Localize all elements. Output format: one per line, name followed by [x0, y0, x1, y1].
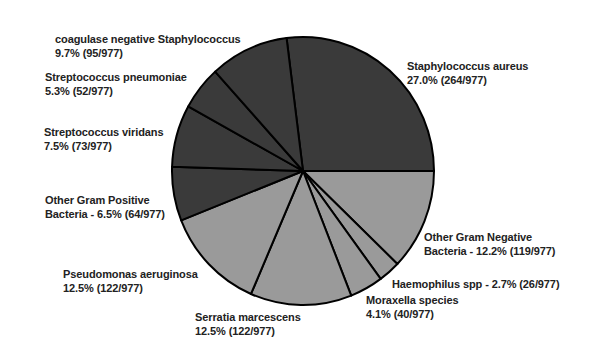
- slice-label-name: Pseudomonas aeruginosa: [63, 267, 198, 281]
- slice-label: Pseudomonas aeruginosa12.5% (122/977): [63, 267, 198, 295]
- slice-label-name: Other Gram Negative: [424, 230, 555, 244]
- slice-label: Serratia marcescens12.5% (122/977): [195, 310, 301, 338]
- slice-label-value: 5.3% (52/977): [45, 84, 187, 98]
- slice-label-name: Streptococcus pneumoniae: [45, 70, 187, 84]
- slice-label: coagulase negative Staphylococcus9.7% (9…: [55, 32, 241, 60]
- slice-label-value: Bacteria - 6.5% (64/977): [45, 207, 165, 221]
- slice-label-value: Bacteria - 12.2% (119/977): [424, 244, 555, 258]
- slice-label-value: 12.5% (122/977): [63, 281, 198, 295]
- slice-label: Moraxella species4.1% (40/977): [366, 293, 458, 321]
- slice-label: Other Gram NegativeBacteria - 12.2% (119…: [424, 230, 555, 258]
- slice-label-value: 4.1% (40/977): [366, 307, 458, 321]
- slice-label-name: Haemophilus spp - 2.7% (26/977): [392, 277, 559, 291]
- slice-label: Haemophilus spp - 2.7% (26/977): [392, 277, 559, 291]
- slice-label-name: Streptococcus viridans: [44, 125, 163, 139]
- slice-label-value: 9.7% (95/977): [55, 46, 241, 60]
- slice-label: Staphylococcus aureus27.0% (264/977): [407, 59, 528, 87]
- slice-label-name: Moraxella species: [366, 293, 458, 307]
- slice-label: Streptococcus pneumoniae5.3% (52/977): [45, 70, 187, 98]
- slice-label-name: Serratia marcescens: [195, 310, 301, 324]
- pie-slice: [287, 37, 434, 171]
- slice-label-name: Other Gram Positive: [45, 193, 165, 207]
- slice-label-name: coagulase negative Staphylococcus: [55, 32, 241, 46]
- slice-label-name: Staphylococcus aureus: [407, 59, 528, 73]
- slice-label: Other Gram PositiveBacteria - 6.5% (64/9…: [45, 193, 165, 221]
- slice-label-value: 27.0% (264/977): [407, 73, 528, 87]
- slice-label-value: 7.5% (73/977): [44, 139, 163, 153]
- slice-label: Streptococcus viridans7.5% (73/977): [44, 125, 163, 153]
- slice-label-value: 12.5% (122/977): [195, 324, 301, 338]
- pie-slices: [172, 37, 434, 305]
